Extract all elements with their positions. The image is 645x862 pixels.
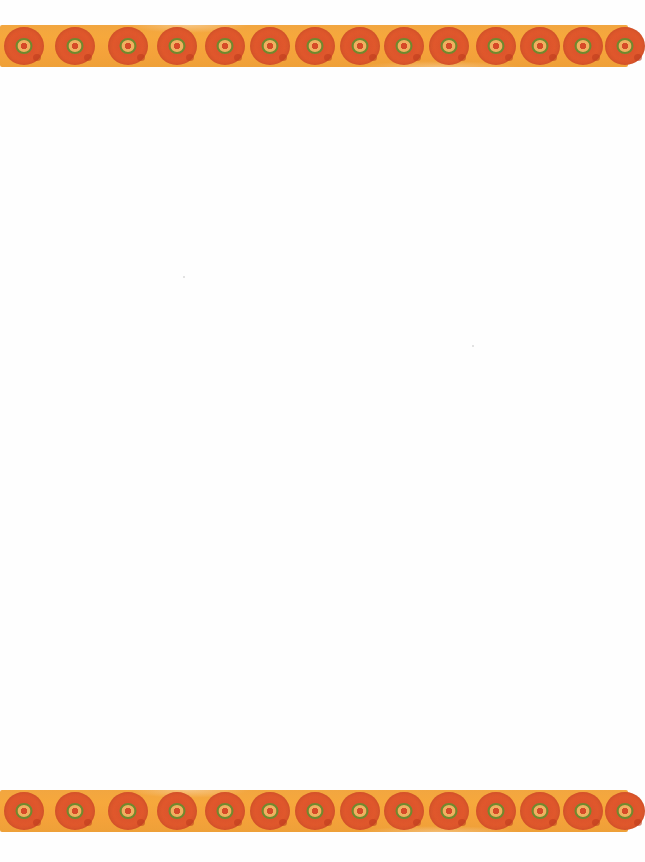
green-ring-icon	[352, 803, 369, 819]
green-ring-icon	[617, 38, 634, 54]
paint-blot	[369, 54, 377, 61]
circle-motif-icon	[295, 27, 335, 65]
circle-motif-icon	[384, 27, 424, 65]
circle-motif-icon	[55, 27, 95, 65]
paint-blot	[324, 819, 332, 826]
green-ring-icon	[488, 803, 505, 819]
green-ring-icon	[120, 38, 137, 54]
green-ring-icon	[67, 38, 84, 54]
green-ring-icon	[396, 38, 413, 54]
paper-speck	[472, 345, 474, 347]
paint-blot	[458, 54, 466, 61]
circle-motif-icon	[205, 27, 245, 65]
circle-motif-icon	[563, 27, 603, 65]
paint-blot	[33, 819, 41, 826]
green-ring-icon	[396, 803, 413, 819]
bottom-border-band	[0, 790, 628, 832]
circle-motif-icon	[340, 27, 380, 65]
paint-blot	[549, 819, 557, 826]
green-ring-icon	[575, 803, 592, 819]
green-ring-icon	[441, 38, 458, 54]
circle-motif-icon	[520, 27, 560, 65]
circle-motif-icon	[295, 792, 335, 830]
paint-blot	[186, 54, 194, 61]
circle-motif-icon	[157, 792, 197, 830]
circle-motif-icon	[108, 27, 148, 65]
paint-blot	[413, 819, 421, 826]
circle-motif-icon	[520, 792, 560, 830]
paint-blot	[137, 819, 145, 826]
circle-motif-icon	[563, 792, 603, 830]
paint-blot	[592, 819, 600, 826]
circle-motif-icon	[476, 792, 516, 830]
paint-blot	[369, 819, 377, 826]
paint-blot	[458, 819, 466, 826]
green-ring-icon	[169, 803, 186, 819]
paint-blot	[279, 54, 287, 61]
green-ring-icon	[488, 38, 505, 54]
paint-blot	[634, 819, 642, 826]
circle-motif-icon	[429, 792, 469, 830]
circle-motif-icon	[205, 792, 245, 830]
circle-motif-icon	[250, 27, 290, 65]
circle-motif-icon	[384, 792, 424, 830]
circle-motif-icon	[157, 27, 197, 65]
paint-blot	[84, 54, 92, 61]
paint-blot	[186, 819, 194, 826]
green-ring-icon	[67, 803, 84, 819]
circle-motif-icon	[4, 792, 44, 830]
green-ring-icon	[217, 803, 234, 819]
paint-blot	[413, 54, 421, 61]
green-ring-icon	[441, 803, 458, 819]
green-ring-icon	[307, 38, 324, 54]
circle-motif-icon	[250, 792, 290, 830]
green-ring-icon	[532, 803, 549, 819]
paper-speck	[183, 276, 185, 278]
green-ring-icon	[352, 38, 369, 54]
green-ring-icon	[16, 38, 33, 54]
green-ring-icon	[575, 38, 592, 54]
green-ring-icon	[532, 38, 549, 54]
paint-blot	[137, 54, 145, 61]
green-ring-icon	[617, 803, 634, 819]
paint-blot	[279, 819, 287, 826]
green-ring-icon	[169, 38, 186, 54]
green-ring-icon	[16, 803, 33, 819]
paint-blot	[234, 54, 242, 61]
green-ring-icon	[262, 38, 279, 54]
circle-motif-icon	[55, 792, 95, 830]
paint-blot	[505, 54, 513, 61]
circle-motif-icon	[4, 27, 44, 65]
paint-blot	[84, 819, 92, 826]
green-ring-icon	[307, 803, 324, 819]
paint-blot	[505, 819, 513, 826]
circle-motif-icon	[108, 792, 148, 830]
green-ring-icon	[120, 803, 137, 819]
circle-motif-icon	[340, 792, 380, 830]
green-ring-icon	[217, 38, 234, 54]
circle-motif-icon	[429, 27, 469, 65]
green-ring-icon	[262, 803, 279, 819]
paint-blot	[33, 54, 41, 61]
paint-blot	[592, 54, 600, 61]
circle-motif-icon	[605, 27, 645, 65]
paint-blot	[549, 54, 557, 61]
paint-blot	[324, 54, 332, 61]
writing-area	[0, 67, 628, 789]
top-border-band	[0, 25, 628, 67]
circle-motif-icon	[476, 27, 516, 65]
paint-blot	[234, 819, 242, 826]
circle-motif-icon	[605, 792, 645, 830]
paint-blot	[634, 54, 642, 61]
